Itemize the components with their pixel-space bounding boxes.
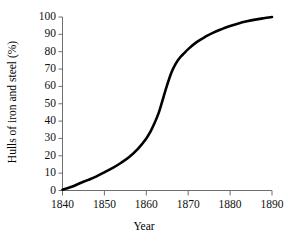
y-tick-label: 0 [10, 185, 56, 197]
x-axis-title: Year [0, 220, 288, 232]
axes [63, 17, 273, 191]
x-tick-label: 1870 [164, 199, 212, 211]
data-series-line [63, 17, 273, 190]
y-axis-ticks [59, 17, 63, 191]
y-axis-title: Hulls of iron and steel (%) [6, 18, 18, 186]
x-tick-label: 1860 [122, 199, 170, 211]
x-axis-ticks [63, 191, 273, 196]
chart-figure: · · · 0102030405060708090100 18401850186… [0, 0, 288, 241]
x-tick-label: 1850 [80, 199, 128, 211]
x-tick-label: 1840 [39, 199, 87, 211]
x-tick-label: 1890 [248, 199, 288, 211]
x-tick-label: 1880 [206, 199, 254, 211]
